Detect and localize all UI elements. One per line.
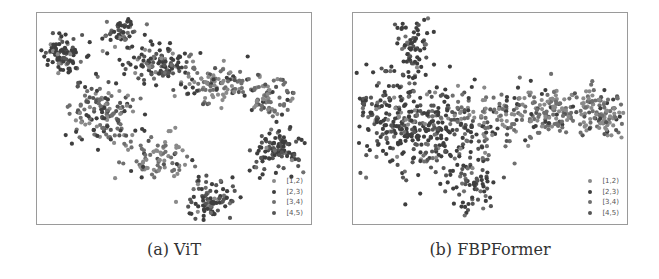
data-point <box>264 146 268 150</box>
data-point <box>406 123 410 127</box>
data-point <box>174 200 178 204</box>
data-point <box>406 70 410 74</box>
data-point <box>79 60 83 64</box>
data-point <box>422 46 426 50</box>
data-point <box>260 104 264 108</box>
data-point <box>176 56 180 60</box>
data-point <box>523 138 527 142</box>
data-point <box>211 77 215 81</box>
data-point <box>381 94 385 98</box>
data-point <box>136 76 140 80</box>
data-point <box>191 86 195 90</box>
data-point <box>485 176 489 180</box>
data-point <box>219 69 223 73</box>
data-point <box>78 135 82 139</box>
data-point <box>546 99 550 103</box>
data-point <box>550 125 554 129</box>
data-point <box>512 122 516 126</box>
data-point <box>109 128 113 132</box>
data-point <box>370 102 374 106</box>
data-point <box>122 142 126 146</box>
data-point <box>116 118 120 122</box>
data-point <box>230 175 234 179</box>
data-point <box>106 80 110 84</box>
data-point <box>393 22 397 26</box>
data-point <box>216 208 220 212</box>
data-point <box>381 149 385 153</box>
data-point <box>432 30 436 34</box>
data-point <box>68 52 72 56</box>
data-point <box>133 129 137 133</box>
data-point <box>542 103 546 107</box>
data-point <box>579 109 583 113</box>
data-point <box>520 118 524 122</box>
data-point <box>169 155 173 159</box>
data-point <box>125 104 129 108</box>
data-point <box>598 121 602 125</box>
data-point <box>126 31 130 35</box>
data-point <box>277 129 281 133</box>
data-point <box>46 58 50 62</box>
data-point <box>505 139 509 143</box>
data-point <box>483 98 487 102</box>
data-point <box>590 79 594 83</box>
data-point <box>434 144 438 148</box>
data-point <box>140 147 144 151</box>
data-point <box>470 85 474 89</box>
data-point <box>83 123 87 127</box>
data-point <box>448 122 452 126</box>
data-point <box>214 183 218 187</box>
data-point <box>290 97 294 101</box>
data-point <box>396 124 400 128</box>
data-point <box>554 117 558 121</box>
data-point <box>267 132 271 136</box>
data-point <box>452 132 456 136</box>
fbpformer-caption: (b) FBPFormer <box>352 240 628 259</box>
data-point <box>532 125 536 129</box>
legend-item: [3,4) <box>272 197 303 208</box>
data-point <box>400 26 404 30</box>
data-point <box>425 92 429 96</box>
data-point <box>261 96 265 100</box>
data-point <box>274 85 278 89</box>
data-point <box>198 51 202 55</box>
data-point <box>117 133 121 137</box>
data-point <box>543 115 547 119</box>
data-point <box>158 48 162 52</box>
data-point <box>78 111 82 115</box>
data-point <box>199 77 203 81</box>
data-point <box>124 67 128 71</box>
data-point <box>385 103 389 107</box>
data-point <box>118 112 122 116</box>
data-point <box>79 116 83 120</box>
data-point <box>590 93 594 97</box>
data-point <box>357 124 361 128</box>
data-point <box>387 84 391 88</box>
data-point <box>280 113 284 117</box>
data-point <box>540 92 544 96</box>
data-point <box>411 138 415 142</box>
data-point <box>131 98 135 102</box>
data-point <box>481 109 485 113</box>
data-point <box>65 40 69 44</box>
data-point <box>123 38 127 42</box>
legend-marker-icon <box>272 179 276 183</box>
data-point <box>393 106 397 110</box>
data-point <box>434 156 438 160</box>
data-point <box>545 109 549 113</box>
data-point <box>71 59 75 63</box>
data-point <box>143 153 147 157</box>
data-point <box>552 90 556 94</box>
data-point <box>415 55 419 59</box>
data-point <box>260 141 264 145</box>
data-point <box>491 180 495 184</box>
data-point <box>118 101 122 105</box>
data-point <box>94 72 98 76</box>
data-point <box>196 210 200 214</box>
data-point <box>197 175 201 179</box>
data-point <box>210 182 214 186</box>
data-point <box>459 105 463 109</box>
data-point <box>262 167 266 171</box>
data-point <box>564 130 568 134</box>
data-point <box>157 41 161 45</box>
